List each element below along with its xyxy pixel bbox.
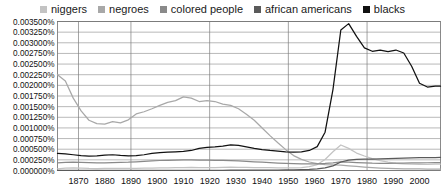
x-tick-label: 1960 xyxy=(305,176,325,186)
y-axis-tick-labels: 0.003500%0.003250%0.003000%0.002750%0.00… xyxy=(13,18,54,176)
chart-legend: niggers negroes colored people african a… xyxy=(0,1,445,17)
legend-item-niggers[interactable]: niggers xyxy=(40,3,87,15)
legend-swatch-icon xyxy=(98,6,105,13)
x-tick-label: 1880 xyxy=(95,176,115,186)
y-tick-label: 0.003000% xyxy=(13,39,54,48)
y-tick-label: 0.000000% xyxy=(13,167,54,176)
legend-item-label: blacks xyxy=(374,3,405,15)
y-tick-label: 0.002000% xyxy=(13,81,54,90)
legend-swatch-icon xyxy=(40,6,47,13)
x-tick-label: 1900 xyxy=(147,176,167,186)
x-tick-label: 1980 xyxy=(357,176,377,186)
x-tick-label: 1950 xyxy=(278,176,298,186)
y-tick-label: 0.001500% xyxy=(13,103,54,112)
y-tick-label: 0.001250% xyxy=(13,113,54,122)
legend-item-label: african americans xyxy=(265,3,352,15)
y-tick-label: 0.000500% xyxy=(13,145,54,154)
x-tick-label: 2000 xyxy=(409,176,429,186)
legend-item-colored-people[interactable]: colored people xyxy=(160,3,243,15)
x-tick-label: 1970 xyxy=(331,176,351,186)
legend-item-label: niggers xyxy=(51,3,87,15)
x-axis-tick-labels: 1870188018901900191019201930194019501960… xyxy=(68,176,429,186)
x-tick-label: 1920 xyxy=(200,176,220,186)
series-line-niggers[interactable] xyxy=(58,145,441,169)
ngram-chart: niggers negroes colored people african a… xyxy=(0,0,445,194)
series-line-blacks[interactable] xyxy=(58,24,441,156)
plot-svg: 0.003500%0.003250%0.003000%0.002750%0.00… xyxy=(0,17,445,194)
legend-item-blacks[interactable]: blacks xyxy=(363,3,405,15)
y-tick-label: 0.002750% xyxy=(13,49,54,58)
legend-swatch-icon xyxy=(254,6,261,13)
x-tick-label: 1890 xyxy=(121,176,141,186)
legend-swatch-icon xyxy=(160,6,167,13)
plot-area: 0.003500%0.003250%0.003000%0.002750%0.00… xyxy=(0,17,445,194)
legend-item-label: negroes xyxy=(109,3,149,15)
x-tick-label: 1910 xyxy=(173,176,193,186)
y-tick-label: 0.001750% xyxy=(13,92,54,101)
legend-item-negroes[interactable]: negroes xyxy=(98,3,149,15)
y-tick-label: 0.002500% xyxy=(13,60,54,69)
horizontal-gridlines xyxy=(58,22,441,171)
legend-swatch-icon xyxy=(363,6,370,13)
legend-item-label: colored people xyxy=(171,3,243,15)
y-tick-label: 0.001000% xyxy=(13,124,54,133)
x-tick-label: 1940 xyxy=(252,176,272,186)
y-tick-label: 0.003250% xyxy=(13,28,54,37)
legend-item-african-americans[interactable]: african americans xyxy=(254,3,352,15)
x-tick-label: 1870 xyxy=(68,176,88,186)
y-tick-label: 0.000750% xyxy=(13,135,54,144)
y-tick-label: 0.000250% xyxy=(13,156,54,165)
y-tick-label: 0.003500% xyxy=(13,18,54,27)
x-tick-label: 1990 xyxy=(383,176,403,186)
data-series xyxy=(58,24,441,171)
x-tick-label: 1930 xyxy=(226,176,246,186)
y-tick-label: 0.002250% xyxy=(13,71,54,80)
